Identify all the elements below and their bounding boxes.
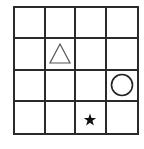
grid-cell-r0-c1 [46, 8, 77, 39]
grid-cell-r3-c3 [107, 102, 138, 133]
grid-cell-r1-c2 [76, 39, 107, 70]
grid-cell-r2-c1 [46, 71, 77, 102]
four-by-four-grid [13, 6, 139, 135]
grid-cell-r3-c2 [76, 102, 107, 133]
grid-cell-r0-c2 [76, 8, 107, 39]
grid-cell-r3-c1 [46, 102, 77, 133]
triangle-icon [49, 43, 71, 65]
grid-cell-r0-c0 [15, 8, 46, 39]
grid-cell-r1-c0 [15, 39, 46, 70]
grid-cell-r3-c0 [15, 102, 46, 133]
grid-diagram [0, 0, 144, 149]
grid-cell-r1-c3 [107, 39, 138, 70]
grid-cell-r2-c0 [15, 71, 46, 102]
grid-cell-r0-c3 [107, 8, 138, 39]
circle-icon [110, 73, 134, 97]
grid-cell-r2-c2 [76, 71, 107, 102]
grid-cell-r2-c3 [107, 71, 138, 102]
star-icon [83, 113, 97, 127]
grid-cell-r1-c1 [46, 39, 77, 70]
